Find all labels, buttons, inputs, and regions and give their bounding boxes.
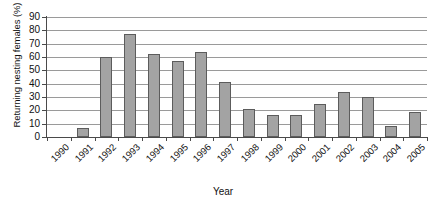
x-tick-mark-1994	[142, 137, 143, 141]
y-tick-mark-20	[42, 110, 47, 111]
x-tick-mark-1992	[95, 137, 96, 141]
y-axis-tick-labels: 9080706050403020100	[8, 0, 40, 205]
bar-2002	[338, 92, 350, 137]
bar-1999	[267, 115, 279, 137]
bar-2003	[362, 97, 374, 137]
y-tick-label-40: 40	[14, 79, 40, 89]
x-tick-label-1996: 1996	[192, 142, 214, 164]
x-tick-mark-1999	[261, 137, 262, 141]
x-tick-label-1993: 1993	[120, 142, 142, 164]
x-tick-label-1997: 1997	[215, 142, 237, 164]
y-tick-mark-60	[42, 57, 47, 58]
y-tick-mark-10	[42, 124, 47, 125]
bar-1992	[100, 57, 112, 137]
x-tick-mark-2003	[356, 137, 357, 141]
x-tick-mark-2001	[308, 137, 309, 141]
x-tick-label-1992: 1992	[97, 142, 119, 164]
x-tick-mark-end	[427, 137, 428, 141]
y-tick-mark-30	[42, 97, 47, 98]
x-axis-title: Year	[0, 186, 446, 197]
x-tick-label-2002: 2002	[334, 142, 356, 164]
y-tick-mark-50	[42, 70, 47, 71]
x-tick-mark-2002	[332, 137, 333, 141]
bar-1991	[77, 128, 89, 137]
x-tick-label-2004: 2004	[382, 142, 404, 164]
bar-1995	[172, 61, 184, 137]
bar-2001	[314, 104, 326, 137]
x-tick-label-2000: 2000	[287, 142, 309, 164]
bar-1997	[219, 82, 231, 137]
y-tick-label-50: 50	[14, 65, 40, 75]
y-tick-label-30: 30	[14, 92, 40, 102]
x-tick-mark-1993	[118, 137, 119, 141]
x-tick-label-2005: 2005	[405, 142, 427, 164]
x-tick-label-1998: 1998	[239, 142, 261, 164]
gridline-90	[47, 17, 427, 18]
x-tick-label-1995: 1995	[168, 142, 190, 164]
y-tick-label-90: 90	[14, 12, 40, 22]
bar-2004	[385, 126, 397, 137]
bar-1996	[195, 52, 207, 137]
x-tick-label-1990: 1990	[49, 142, 71, 164]
bar-1993	[124, 34, 136, 137]
x-tick-mark-1997	[213, 137, 214, 141]
bar-2000	[290, 115, 302, 137]
y-tick-mark-90	[42, 17, 47, 18]
x-tick-label-2001: 2001	[310, 142, 332, 164]
x-tick-label-1999: 1999	[263, 142, 285, 164]
bar-chart: Returning nesting females (%) 9080706050…	[0, 0, 446, 205]
y-tick-mark-70	[42, 44, 47, 45]
y-tick-mark-80	[42, 30, 47, 31]
y-tick-label-70: 70	[14, 39, 40, 49]
x-tick-mark-1990	[47, 137, 48, 141]
x-tick-mark-2004	[380, 137, 381, 141]
bar-1998	[243, 109, 255, 137]
y-tick-label-20: 20	[14, 105, 40, 115]
x-tick-mark-1991	[71, 137, 72, 141]
y-tick-label-80: 80	[14, 25, 40, 35]
x-tick-label-1994: 1994	[144, 142, 166, 164]
x-tick-mark-2000	[285, 137, 286, 141]
x-tick-mark-1995	[166, 137, 167, 141]
x-tick-mark-1998	[237, 137, 238, 141]
y-tick-label-10: 10	[14, 119, 40, 129]
gridline-80	[47, 30, 427, 31]
x-tick-label-2003: 2003	[358, 142, 380, 164]
x-tick-mark-1996	[190, 137, 191, 141]
y-tick-label-0: 0	[14, 132, 40, 142]
bar-1994	[148, 54, 160, 137]
x-tick-label-1991: 1991	[73, 142, 95, 164]
plot-area	[47, 17, 427, 137]
gridline-70	[47, 44, 427, 45]
y-tick-label-60: 60	[14, 52, 40, 62]
y-tick-mark-40	[42, 84, 47, 85]
bar-2005	[409, 112, 421, 137]
x-tick-mark-2005	[403, 137, 404, 141]
